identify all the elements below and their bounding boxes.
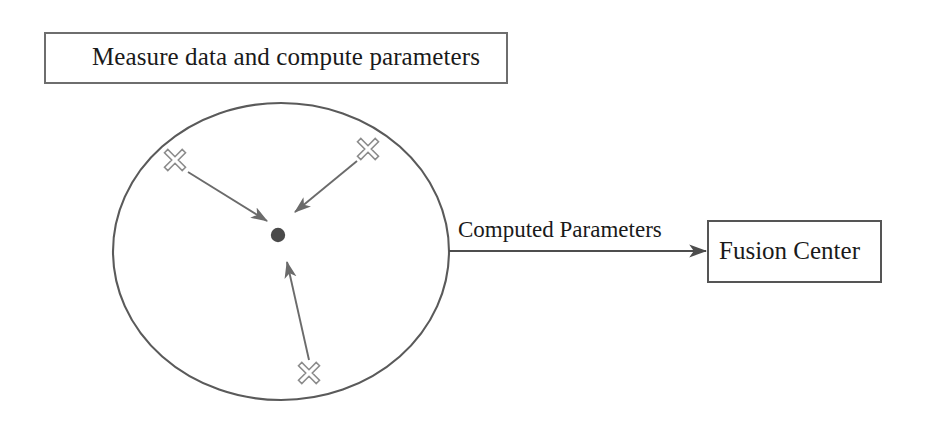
x-marker-icon <box>165 150 186 171</box>
legend-label: Measure data and compute parameters <box>92 44 480 69</box>
sensor-top-left[interactable] <box>165 150 186 171</box>
arrow-top-right-to-center <box>295 161 357 212</box>
fusion-center-label: Fusion Center <box>719 238 860 263</box>
arrow-top-left-to-center <box>188 172 267 221</box>
output-edge-label: Computed Parameters <box>458 218 662 241</box>
sensor-top-right[interactable] <box>358 139 379 160</box>
diagram-canvas: Measure data and compute parameters Comp… <box>0 0 926 422</box>
sensor-bottom[interactable] <box>299 363 320 384</box>
arrow-bottom-to-center <box>287 262 309 360</box>
x-marker-icon <box>358 139 379 160</box>
x-marker-icon <box>299 363 320 384</box>
center-node-dot[interactable] <box>271 228 285 242</box>
sensor-field-ellipse <box>113 103 449 400</box>
